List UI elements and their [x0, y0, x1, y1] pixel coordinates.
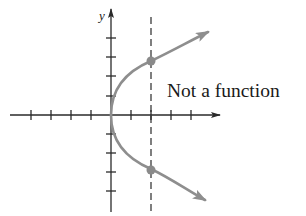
y-axis-label: y: [97, 8, 105, 23]
intersection-point-upper: [147, 57, 156, 66]
x-axis: [10, 110, 220, 120]
not-a-function-label: Not a function: [167, 80, 280, 101]
parabola-lower-branch: [111, 115, 205, 200]
y-axis: y: [97, 8, 116, 212]
intersection-point-lower: [147, 166, 156, 175]
parabola-upper-branch: [111, 32, 208, 115]
vertical-line-test-diagram: y Not a function: [0, 0, 306, 216]
